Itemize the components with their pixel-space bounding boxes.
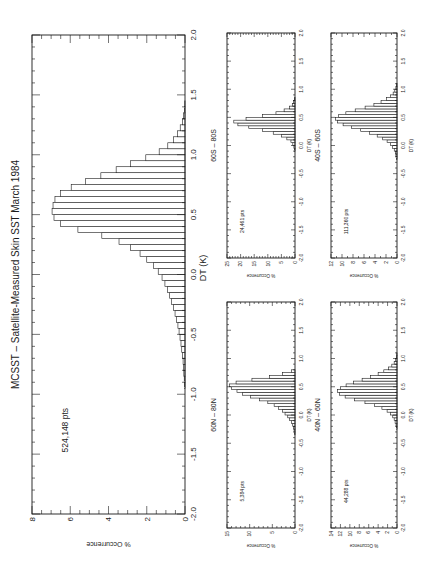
occurrence-tick-label: 4: [104, 516, 113, 521]
histogram-bar: [281, 134, 295, 137]
occurrence-tick-label: 2: [383, 261, 389, 264]
occurrence-tick-label: 10: [347, 531, 353, 537]
panel-60n-80n: -2.0-1.5-1.0-0.50.00.51.01.52.0051015% O…: [210, 298, 312, 548]
histogram-bar: [339, 115, 397, 118]
histogram-bar: [339, 392, 397, 395]
dt-tick-label: -2.0: [400, 253, 406, 262]
dt-tick-label: 2.0: [400, 29, 406, 36]
histogram-bar: [393, 146, 397, 149]
histogram-bar: [159, 149, 185, 155]
occurrence-tick-label: 5: [278, 261, 284, 264]
occurrence-tick-label: 15: [224, 531, 230, 537]
histogram-bar: [55, 197, 185, 203]
histogram-bar: [377, 134, 397, 137]
occurrence-tick-label: 6: [66, 516, 75, 521]
point-count-annotation: 5,384 pts: [239, 480, 245, 501]
dt-axis-ticks: [227, 33, 295, 258]
panel-40s-60s: -2.0-1.5-1.0-0.50.00.51.01.52.0024681012…: [314, 29, 414, 278]
dt-axis-label: DT (K): [307, 138, 312, 152]
chart-title: 60S – 80S: [210, 129, 217, 162]
histogram-bar: [374, 103, 397, 106]
dt-tick-label: -1.5: [400, 495, 406, 504]
histogram-bar: [282, 409, 295, 412]
chart-title: 40S – 60S: [314, 129, 321, 162]
histogram-bars: [335, 84, 397, 160]
dt-tick-label: -1.0: [400, 197, 406, 206]
histogram-bar: [130, 245, 185, 251]
dt-tick-label: -0.5: [400, 439, 406, 448]
histogram-bar: [287, 137, 295, 140]
dt-tick-label: 1.0: [400, 86, 406, 93]
panel-40n-60n: -2.0-1.5-1.0-0.50.00.51.01.52.0024681012…: [314, 298, 414, 548]
histogram-bar: [158, 269, 185, 275]
dt-axis-ticks: [331, 33, 397, 258]
histogram-bar: [61, 221, 185, 227]
histogram-bar: [102, 233, 185, 239]
histogram-bar: [354, 381, 397, 384]
point-count-annotation: 44,288 pts: [343, 479, 349, 503]
occurrence-tick-label: 12: [337, 531, 343, 537]
dt-tick-label: -0.5: [298, 169, 304, 178]
occurrence-tick-label: 5: [269, 531, 275, 534]
panel-main: -2.0-1.5-1.0-0.50.00.51.01.52.002468% Oc…: [10, 29, 208, 548]
dt-axis-label: DT (K): [307, 408, 312, 422]
histogram-bar: [175, 310, 185, 316]
histogram-bar: [335, 117, 397, 120]
panels: -2.0-1.5-1.0-0.50.00.51.01.52.002468% Oc…: [10, 29, 414, 548]
occurrence-tick-label: 20: [237, 261, 243, 267]
histogram-bar: [53, 203, 185, 209]
histogram-bar: [338, 390, 397, 393]
occurrence-tick-label: 0: [292, 261, 298, 264]
histogram-bar: [390, 143, 397, 146]
dt-tick-label: 2.0: [298, 298, 304, 305]
dt-tick-label: -2.0: [189, 507, 198, 521]
dt-axis-ticks: [331, 302, 397, 528]
dt-tick-label: 1.0: [298, 355, 304, 362]
histogram-bar: [291, 421, 295, 424]
histogram-bar: [383, 137, 397, 140]
histogram-bar: [393, 415, 397, 418]
histogram-bar: [246, 117, 295, 120]
histogram-bar: [86, 179, 185, 185]
occurrence-tick-label: 12: [328, 261, 334, 267]
histogram-bar: [170, 292, 185, 298]
dt-tick-label: 2.0: [400, 298, 406, 305]
histogram-bar: [276, 112, 295, 115]
occurrence-tick-label: 8: [28, 516, 37, 521]
histogram-bar: [54, 215, 185, 221]
dt-tick-label: 0.0: [400, 142, 406, 149]
histogram-bar: [78, 227, 185, 233]
dt-tick-label: 0.5: [189, 209, 198, 221]
dt-tick-label: -0.5: [189, 327, 198, 341]
histogram-bar: [361, 129, 397, 132]
histogram-bar: [178, 322, 185, 328]
occurrence-tick-label: 6: [365, 531, 371, 534]
histogram-bar: [392, 364, 397, 367]
occurrence-tick-label: 2: [143, 516, 152, 521]
histogram-bar: [52, 209, 185, 215]
histogram-bar: [260, 398, 295, 401]
histogram-bar: [274, 404, 295, 407]
histogram-bar: [346, 112, 397, 115]
occurrence-axis-label: % Occurrence: [349, 543, 378, 548]
occurrence-tick-label: 10: [339, 261, 345, 267]
dt-tick-label: 0.5: [400, 114, 406, 121]
histogram-bar: [282, 373, 295, 376]
dt-tick-label: 1.5: [298, 327, 304, 334]
dt-tick-label: 2.0: [189, 29, 198, 41]
histogram-bar: [390, 412, 397, 415]
histogram-bar: [291, 370, 295, 373]
occurrence-tick-label: 10: [246, 531, 252, 537]
occurrence-tick-label: 25: [224, 261, 230, 267]
dt-tick-label: 0.0: [189, 268, 198, 280]
dt-tick-label: 0.5: [400, 383, 406, 390]
histogram-bars: [338, 353, 397, 429]
histogram-bar: [270, 375, 295, 378]
dt-tick-label: -2.0: [400, 523, 406, 532]
dt-tick-label: -1.0: [400, 467, 406, 476]
histogram-bar: [389, 367, 397, 370]
dt-tick-label: 1.5: [189, 89, 198, 101]
histogram-bar: [345, 395, 397, 398]
occurrence-tick-label: 0: [394, 531, 400, 534]
occurrence-tick-label: 10: [265, 261, 271, 267]
